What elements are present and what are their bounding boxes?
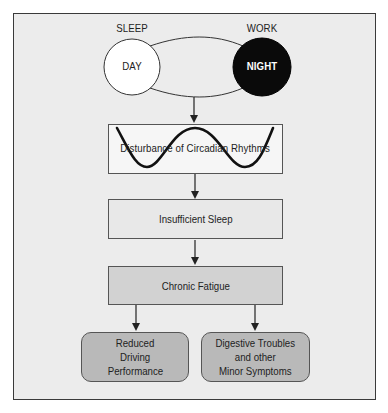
arrow-down-icon <box>191 174 199 199</box>
arrow-down-icon <box>251 305 259 331</box>
outcome-line: and other <box>235 350 276 364</box>
chronic-fatigue-box: Chronic Fatigue <box>108 266 283 305</box>
arrow-down-icon <box>132 305 140 331</box>
outcome-line: Reduced <box>116 336 155 350</box>
cycle-arc-top <box>150 37 243 46</box>
night-label: NIGHT <box>239 60 285 72</box>
arrow-down-icon <box>190 97 198 123</box>
digestive-troubles-box: Digestive Troubles and other Minor Sympt… <box>201 332 310 382</box>
insufficient-sleep-label: Insufficient Sleep <box>159 212 233 226</box>
chronic-fatigue-label: Chronic Fatigue <box>161 279 229 293</box>
work-label: WORK <box>239 22 285 34</box>
day-label: DAY <box>109 60 155 72</box>
reduced-driving-box: Reduced Driving Performance <box>81 332 189 382</box>
outcome-line: Digestive Troubles <box>216 336 296 350</box>
cycle-arc-bottom <box>150 88 243 97</box>
circadian-label: Disturbance of Circadian Rhythms <box>118 142 271 154</box>
outcome-line: Minor Symptoms <box>219 364 292 378</box>
outcome-line: Performance <box>107 364 162 378</box>
arrow-down-icon <box>191 240 199 265</box>
outcome-line: Driving <box>120 350 150 364</box>
insufficient-sleep-box: Insufficient Sleep <box>108 199 283 239</box>
sleep-label: SLEEP <box>109 22 155 34</box>
